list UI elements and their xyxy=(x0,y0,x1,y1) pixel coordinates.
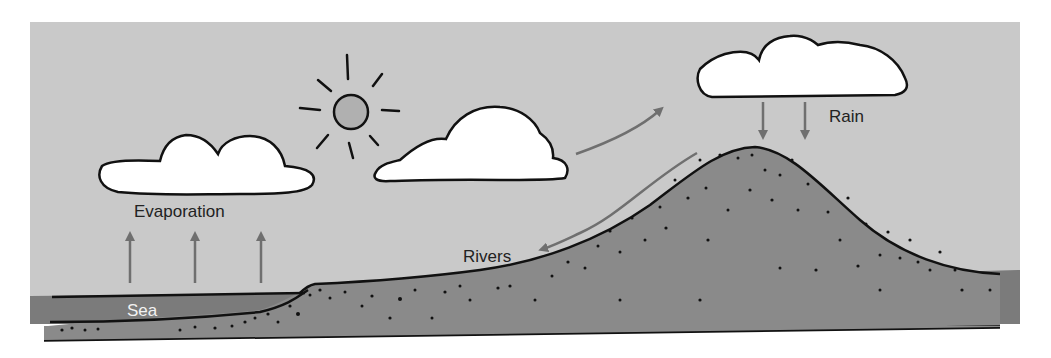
rain-label: Rain xyxy=(829,108,864,125)
water-cycle-diagram xyxy=(0,0,1051,358)
ground-bottom-fill xyxy=(44,326,1000,340)
rivers-label: Rivers xyxy=(463,248,511,265)
sea-label: Sea xyxy=(127,302,157,319)
evaporation-label: Evaporation xyxy=(134,203,225,220)
